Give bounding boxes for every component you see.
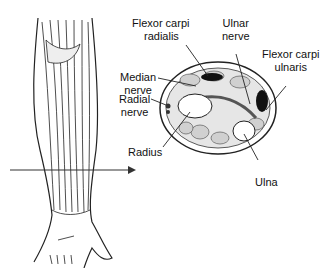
- label-ulnar-nerve: Ulnar nerve: [222, 17, 250, 43]
- label-radial-nerve: Radial nerve: [119, 93, 150, 119]
- label-ulna: Ulna: [255, 176, 278, 189]
- ulna-bone: [233, 121, 255, 141]
- forearm-illustration: [34, 18, 112, 268]
- label-radius: Radius: [128, 146, 162, 159]
- label-line: nerve: [119, 106, 150, 119]
- label-line: Radial: [119, 93, 150, 106]
- label-flexor-carpi-radialis: Flexor carpi radialis: [132, 17, 189, 43]
- label-line: radialis: [132, 30, 189, 43]
- label-line: ulnaris: [262, 61, 319, 74]
- label-line: Flexor carpi: [132, 17, 189, 30]
- label-line: Median: [120, 71, 156, 84]
- label-flexor-carpi-ulnaris: Flexor carpi ulnaris: [262, 48, 319, 74]
- section-arrow: [10, 166, 136, 174]
- label-line: nerve: [222, 30, 250, 43]
- radius-bone: [178, 94, 212, 118]
- label-line: Flexor carpi: [262, 48, 319, 61]
- cross-section: [160, 62, 276, 154]
- label-line: Ulnar: [222, 17, 250, 30]
